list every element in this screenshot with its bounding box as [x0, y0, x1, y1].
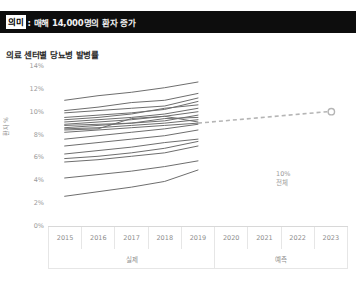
forecast-line [198, 112, 327, 123]
line-chart-svg [48, 66, 348, 226]
series-line [65, 139, 198, 154]
y-axis-tick: 6% [18, 153, 44, 161]
x-axis-tick: 2017 [115, 227, 148, 249]
y-axis-tick: 12% [18, 85, 44, 93]
y-axis-tick: 4% [18, 176, 44, 184]
y-axis-tick: 0% [18, 222, 44, 230]
callout-banner: 의미 : 매해 14,000명의 환자 증가 [0, 11, 356, 33]
x-axis-tick: 2020 [215, 227, 248, 249]
forecast-endpoint-value: 10% [276, 170, 290, 179]
series-line [65, 146, 198, 162]
x-axis-tick: 2018 [149, 227, 182, 249]
series-line [65, 170, 198, 196]
forecast-endpoint-annotation: 10% 전체 [276, 170, 290, 188]
x-axis: 201520162017201820192020202120222023 실제예… [48, 226, 348, 278]
forecast-endpoint-marker [328, 109, 334, 115]
y-axis-tick: 8% [18, 131, 44, 139]
x-axis-tick: 2019 [182, 227, 215, 249]
x-axis-tick: 2022 [282, 227, 315, 249]
x-axis-tick: 2023 [315, 227, 348, 249]
series-line [65, 98, 198, 113]
x-axis-tick: 2015 [48, 227, 82, 249]
x-axis-ticks: 201520162017201820192020202120222023 [48, 227, 348, 249]
series-line [65, 161, 198, 178]
y-axis-tick: 10% [18, 108, 44, 116]
x-axis-tick: 2016 [82, 227, 115, 249]
chart-container: 환자 % 0%2%4%6%8%10%12%14% 10% 전체 20152016… [0, 66, 356, 282]
x-axis-group-labels: 실제예측 [48, 249, 348, 269]
plot-area [48, 66, 348, 226]
x-axis-group-label: 예측 [215, 249, 348, 269]
y-axis-tick: 14% [18, 62, 44, 70]
callout-badge: 의미 [6, 15, 26, 29]
y-axis-ticks: 0%2%4%6%8%10%12%14% [16, 66, 44, 226]
forecast-endpoint-name: 전체 [276, 179, 290, 188]
y-axis-tick: 2% [18, 199, 44, 207]
chart-title: 의료 센터별 당뇨병 발병률 [6, 48, 99, 60]
x-axis-group-label: 실제 [48, 249, 215, 269]
x-axis-tick: 2021 [248, 227, 281, 249]
callout-text: : 매해 14,000명의 환자 증가 [28, 16, 136, 28]
y-axis-label: 환자 % [1, 117, 10, 136]
series-line [65, 101, 198, 117]
